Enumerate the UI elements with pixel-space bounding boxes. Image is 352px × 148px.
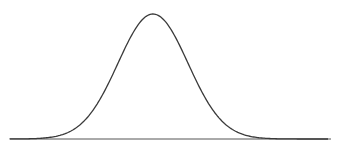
bell-curve-chart [0,0,352,148]
normal-distribution-curve [10,14,329,139]
